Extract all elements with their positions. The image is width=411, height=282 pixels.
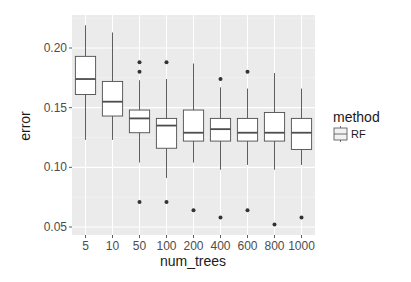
y-tick-label: 0.20 [44,41,68,55]
outlier-point [246,70,250,74]
outlier-point [192,208,196,212]
x-tick-label: 1000 [288,239,315,253]
legend-key-box-icon [334,126,347,142]
x-tick-label: 600 [237,239,257,253]
legend-label-rf: RF [351,128,366,140]
y-tick-label: 0.15 [44,101,68,115]
legend-title: method [333,109,380,125]
boxplot-chart: 0.050.100.150.20 51050100200400600800100… [0,0,411,282]
outlier-point [165,60,169,64]
x-tick-label: 5 [82,239,89,253]
x-axis: 510501002004006008001000 [82,235,315,253]
legend: method RF [333,109,380,142]
outlier-point [246,208,250,212]
x-axis-title: num_trees [160,253,226,269]
x-tick-label: 400 [210,239,230,253]
outlier-point [300,215,304,219]
outlier-point [219,77,223,81]
outlier-point [273,223,277,227]
outlier-point [138,70,142,74]
x-tick-label: 800 [264,239,284,253]
y-tick-label: 0.10 [44,160,68,174]
y-axis: 0.050.100.150.20 [44,41,72,234]
x-tick-label: 100 [156,239,176,253]
outlier-point [138,200,142,204]
outlier-point [165,200,169,204]
y-axis-title: error [17,111,33,141]
y-tick-label: 0.05 [44,220,68,234]
outlier-point [138,60,142,64]
outlier-point [219,215,223,219]
x-tick-label: 50 [133,239,147,253]
x-tick-label: 200 [183,239,203,253]
x-tick-label: 10 [106,239,120,253]
